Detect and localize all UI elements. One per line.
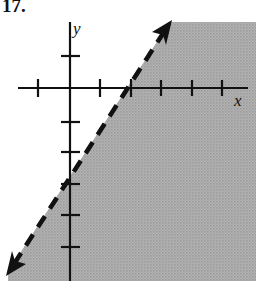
x-axis-label: x (234, 92, 242, 109)
shaded-region-fill-right (8, 22, 256, 281)
inequality-graph-figure (0, 0, 256, 281)
problem-number: 17. (2, 0, 26, 16)
y-axis-label: y (73, 20, 81, 37)
